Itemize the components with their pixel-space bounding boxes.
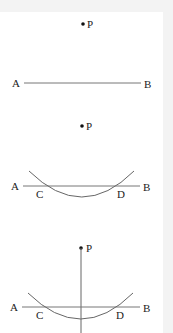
point-c-label: C bbox=[36, 188, 43, 200]
panel-step-1: P A B bbox=[12, 18, 151, 90]
point-a-label: A bbox=[10, 301, 18, 313]
point-p-marker bbox=[81, 22, 85, 26]
point-b-label: B bbox=[143, 181, 150, 193]
point-a-label: A bbox=[11, 180, 19, 192]
point-p-marker bbox=[80, 124, 84, 128]
point-d-label: D bbox=[117, 188, 125, 200]
point-p-label: P bbox=[86, 242, 92, 254]
point-c-label: C bbox=[36, 309, 43, 321]
point-p-label: P bbox=[87, 18, 93, 30]
point-b-label: B bbox=[144, 78, 151, 90]
construction-diagram: P A B P A B C D P A B C D bbox=[0, 0, 173, 333]
panel-step-3: P A B C D bbox=[10, 242, 150, 333]
point-d-label: D bbox=[116, 309, 124, 321]
point-p-label: P bbox=[86, 120, 92, 132]
point-a-label: A bbox=[12, 77, 20, 89]
panel-step-2: P A B C D bbox=[11, 120, 150, 200]
point-b-label: B bbox=[143, 302, 150, 314]
